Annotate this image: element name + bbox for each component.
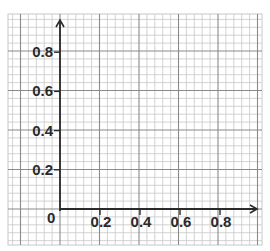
graph-paper: 0 0.20.40.60.80.20.40.60.8 [0, 0, 270, 251]
tick-marks [54, 52, 220, 215]
y-tick-label: 0.2 [32, 161, 53, 178]
x-tick-label: 0.6 [171, 213, 192, 230]
axes [56, 20, 257, 213]
origin-label: 0 [47, 209, 55, 226]
x-tick-label: 0.2 [91, 213, 112, 230]
x-tick-label: 0.4 [131, 213, 153, 230]
y-tick-label: 0.4 [32, 122, 54, 139]
y-tick-label: 0.6 [32, 82, 53, 99]
y-tick-label: 0.8 [32, 43, 53, 60]
x-tick-label: 0.8 [211, 213, 232, 230]
coordinate-grid: 0 0.20.40.60.80.20.40.60.8 [0, 0, 270, 251]
tick-labels: 0 0.20.40.60.80.20.40.60.8 [32, 43, 231, 230]
